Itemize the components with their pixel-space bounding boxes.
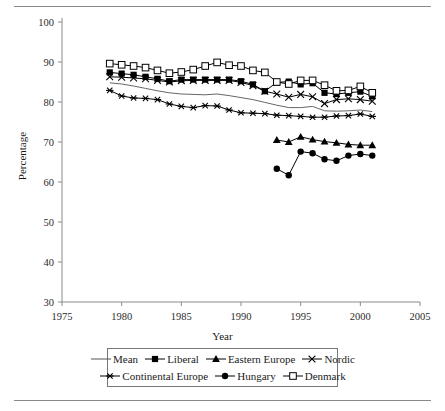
x-axis-tick-label: 1980 (111, 311, 132, 322)
marker-filled-square (226, 77, 232, 83)
legend-item-label: Hungary (237, 370, 276, 382)
series-hungary (274, 148, 376, 178)
marker-filled-circle (369, 152, 375, 158)
marker-open-square (274, 79, 281, 86)
marker-filled-square (214, 77, 220, 83)
x-axis-label: Year (0, 330, 445, 342)
marker-open-square (285, 81, 292, 88)
legend-marker-open-square-icon (282, 370, 304, 382)
y-axis-tick-label: 60 (44, 177, 55, 188)
marker-filled-triangle (273, 136, 281, 143)
legend-item-hungary: Hungary (214, 370, 276, 382)
marker-open-square (321, 82, 328, 89)
marker-open-square (333, 88, 340, 95)
y-axis-label: Percentage (16, 121, 28, 191)
legend-marker-asterisk-icon (99, 370, 121, 382)
marker-filled-circle (321, 156, 327, 162)
marker-filled-square (152, 356, 158, 362)
legend-item-liberal: Liberal (144, 353, 199, 365)
legend-marker-filled-triangle-icon (205, 353, 227, 365)
marker-open-square (309, 77, 316, 84)
series-liberal (107, 69, 376, 99)
figure-container: 3040506070809010019751980198519901995200… (0, 0, 445, 411)
y-axis-tick-label: 50 (44, 217, 55, 228)
legend-item-mean: Mean (90, 353, 138, 365)
marker-filled-circle (309, 150, 315, 156)
marker-open-square (369, 90, 376, 97)
legend-row: MeanLiberalEastern EuropeNordic (87, 351, 358, 368)
marker-open-square (238, 63, 245, 70)
chart-legend: MeanLiberalEastern EuropeNordicContinent… (107, 348, 338, 387)
marker-open-square (190, 66, 197, 73)
legend-marker-filled-square-icon (144, 353, 166, 365)
marker-filled-square (166, 78, 172, 84)
marker-open-square (262, 69, 269, 76)
legend-item-denmark: Denmark (282, 370, 346, 382)
marker-open-square (106, 60, 113, 67)
legend-item-label: Continental Europe (122, 370, 208, 382)
legend-item-label: Denmark (305, 370, 346, 382)
legend-marker-x-cross-icon (301, 353, 323, 365)
marker-open-square (142, 64, 149, 71)
y-axis-tick-label: 90 (44, 57, 55, 68)
x-axis-tick-label: 2005 (410, 311, 431, 322)
marker-open-square (345, 87, 352, 94)
y-axis-tick-label: 100 (38, 17, 54, 28)
marker-filled-circle (274, 166, 280, 172)
marker-open-square (226, 62, 233, 69)
marker-open-square (178, 69, 185, 76)
legend-row: Continental EuropeHungaryDenmark (96, 368, 348, 385)
y-axis-tick-label: 30 (44, 297, 55, 308)
legend-item-label: Mean (113, 353, 138, 365)
marker-filled-square (190, 77, 196, 83)
marker-open-square (250, 67, 257, 74)
x-axis-tick-label: 2000 (350, 311, 371, 322)
marker-filled-circle (286, 172, 292, 178)
series-eastern-europe (273, 133, 376, 148)
marker-filled-square (131, 72, 137, 78)
x-axis-tick-label: 1975 (52, 311, 73, 322)
marker-open-square (118, 62, 125, 69)
marker-filled-square (321, 90, 327, 96)
marker-filled-circle (345, 152, 351, 158)
marker-open-square (166, 70, 173, 77)
x-axis-tick-label: 1990 (231, 311, 252, 322)
marker-open-square (297, 77, 304, 84)
marker-filled-circle (357, 151, 363, 157)
y-axis-tick-label: 80 (44, 97, 55, 108)
marker-filled-circle (222, 373, 228, 379)
marker-filled-circle (333, 158, 339, 164)
marker-open-square (214, 59, 221, 66)
y-axis-tick-label: 70 (44, 137, 55, 148)
marker-open-square (154, 67, 161, 74)
legend-item-nordic: Nordic (301, 353, 355, 365)
legend-item-label: Liberal (167, 353, 199, 365)
legend-item-eastern-europe: Eastern Europe (205, 353, 296, 365)
legend-item-label: Eastern Europe (228, 353, 296, 365)
legend-item-continental-europe: Continental Europe (99, 370, 208, 382)
x-axis-tick-label: 1985 (171, 311, 192, 322)
marker-filled-square (178, 77, 184, 83)
marker-open-square (289, 373, 296, 380)
marker-filled-square (202, 77, 208, 83)
marker-open-square (357, 83, 364, 90)
legend-marker-line-icon (90, 353, 112, 365)
y-axis-tick-label: 40 (44, 257, 55, 268)
marker-filled-triangle (297, 133, 305, 140)
legend-marker-filled-circle-icon (214, 370, 236, 382)
x-axis-tick-label: 1995 (290, 311, 311, 322)
marker-filled-circle (297, 148, 303, 154)
legend-item-label: Nordic (324, 353, 355, 365)
marker-open-square (130, 63, 137, 70)
marker-open-square (202, 63, 209, 70)
